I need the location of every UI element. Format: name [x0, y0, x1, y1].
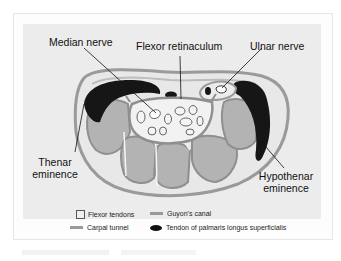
legend-guyons-canal: Guyon's canal [150, 210, 211, 217]
legend-palmaris-longus: Tendon of palmaris longus superficialis [150, 224, 286, 231]
label-hypothenar-eminence: Hypothenar eminence [256, 170, 316, 194]
legend-label: Tendon of palmaris longus superficialis [166, 224, 286, 231]
legend-label: Carpal tunnel [87, 224, 129, 231]
legend-label: Flexor tendons [88, 211, 134, 218]
label-thenar-eminence: Thenar eminence [27, 156, 83, 180]
legend-flexor-tendons: Flexor tendons [76, 210, 134, 219]
label-flexor-retinaculum: Flexor retinaculum [136, 40, 222, 52]
label-hypothenar-line1: Hypothenar [256, 170, 316, 182]
label-thenar-line1: Thenar [27, 156, 83, 168]
legend-label: Guyon's canal [167, 210, 211, 217]
caption-placeholder [22, 250, 312, 255]
gray-bar-icon [150, 212, 163, 215]
label-hypothenar-line2: eminence [256, 182, 316, 194]
black-oval-icon [150, 225, 162, 231]
ulnar-artery [205, 87, 211, 95]
ulnar-nerve-shape [216, 86, 226, 93]
gray-bar-icon [70, 226, 83, 229]
label-ulnar-nerve: Ulnar nerve [250, 40, 304, 52]
label-thenar-line2: eminence [27, 168, 83, 180]
legend-carpal-tunnel: Carpal tunnel [70, 224, 129, 231]
square-outline-icon [76, 210, 85, 219]
label-median-nerve: Median nerve [49, 36, 113, 48]
